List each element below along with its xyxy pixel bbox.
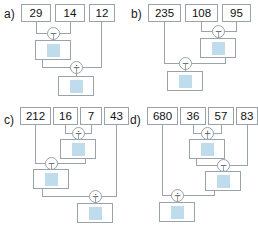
panel-d-line — [221, 125, 222, 133]
result-placeholder — [217, 175, 230, 188]
panel-c-line — [65, 125, 66, 133]
panel-d-line — [180, 195, 215, 196]
panel-d: d) 680 36 57 83 + − ÷ — [129, 105, 258, 228]
panel-b-input-2[interactable]: 95 — [222, 4, 251, 22]
panel-c-input-0[interactable]: 212 — [20, 107, 51, 125]
panel-a-line — [42, 60, 43, 67]
result-placeholder — [89, 207, 102, 220]
panel-d-result-2[interactable] — [205, 171, 241, 191]
panel-b-line — [236, 22, 237, 31]
panel-d-input-1[interactable]: 36 — [180, 107, 206, 125]
panel-c-line — [91, 125, 92, 133]
panel-d-input-3[interactable]: 83 — [236, 107, 258, 125]
panel-c-line — [42, 189, 43, 196]
panel-b-line — [164, 22, 165, 63]
panel-d-input-0[interactable]: 680 — [147, 107, 178, 125]
panel-a-result-1[interactable] — [35, 40, 71, 60]
panel-b-label: b) — [131, 8, 142, 20]
panel-b-input-0[interactable]: 235 — [148, 4, 181, 22]
panel-b-line — [201, 22, 202, 31]
result-placeholder — [45, 173, 58, 186]
panel-a-input-0[interactable]: 29 — [21, 4, 51, 22]
result-placeholder — [47, 44, 60, 57]
panel-c-result-3[interactable] — [77, 203, 113, 223]
panel-d-result-1[interactable] — [189, 139, 225, 159]
panel-b-result-1[interactable] — [200, 38, 236, 58]
panel-c-input-3[interactable]: 43 — [104, 107, 129, 125]
panel-d-line — [247, 125, 248, 165]
panel-a-input-2[interactable]: 12 — [89, 4, 115, 22]
panel-a-line — [42, 67, 73, 68]
panel-d-line — [193, 125, 194, 133]
result-placeholder — [171, 206, 184, 219]
panel-c: c) 212 16 7 43 ÷ − ÷ — [0, 105, 129, 228]
panel-b: b) 235 108 95 − − — [129, 0, 258, 105]
result-placeholder — [201, 143, 214, 156]
panel-c-label: c) — [4, 114, 14, 126]
result-placeholder — [212, 42, 225, 55]
panel-c-input-2[interactable]: 7 — [80, 107, 102, 125]
panel-d-label: d) — [130, 114, 141, 126]
panel-a: a) 29 14 12 − ÷ — [0, 0, 129, 105]
panel-d-line — [162, 125, 163, 195]
panel-a-line — [70, 22, 71, 33]
result-placeholder — [70, 80, 83, 93]
result-placeholder — [179, 75, 192, 88]
panel-a-result-2[interactable] — [58, 76, 94, 96]
worksheet-grid: a) 29 14 12 − ÷ b) 235 — [0, 0, 258, 228]
panel-a-line — [101, 22, 102, 67]
panel-a-line — [36, 22, 37, 33]
panel-c-line — [116, 125, 117, 196]
panel-d-input-2[interactable]: 57 — [208, 107, 234, 125]
panel-c-input-1[interactable]: 16 — [53, 107, 78, 125]
panel-c-line — [35, 125, 36, 163]
panel-c-result-1[interactable] — [60, 139, 96, 159]
panel-c-line — [42, 196, 92, 197]
panel-d-result-3[interactable] — [159, 202, 195, 222]
panel-b-input-1[interactable]: 108 — [185, 4, 218, 22]
panel-b-result-2[interactable] — [167, 71, 203, 91]
panel-c-result-2[interactable] — [33, 169, 69, 189]
panel-c-line — [54, 163, 86, 164]
panel-b-line — [188, 63, 226, 64]
panel-a-input-1[interactable]: 14 — [55, 4, 85, 22]
panel-a-label: a) — [4, 8, 15, 20]
result-placeholder — [72, 143, 85, 156]
